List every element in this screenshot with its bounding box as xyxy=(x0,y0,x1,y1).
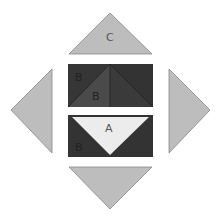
bottom-triangle-piece xyxy=(69,167,152,209)
lower-rectangle-unit: A B xyxy=(68,115,153,157)
left-triangle-piece xyxy=(11,69,52,153)
right-triangle-piece xyxy=(169,69,210,153)
label-c: C xyxy=(106,31,114,44)
label-a: A xyxy=(105,122,113,135)
upper-rectangle-unit: B B xyxy=(68,64,153,107)
quilt-diagram: C B B A B xyxy=(0,0,217,221)
label-b-lower-corner: B xyxy=(75,141,83,154)
label-b-upper-corner: B xyxy=(75,71,83,84)
label-b-upper-mid: B xyxy=(92,90,100,103)
